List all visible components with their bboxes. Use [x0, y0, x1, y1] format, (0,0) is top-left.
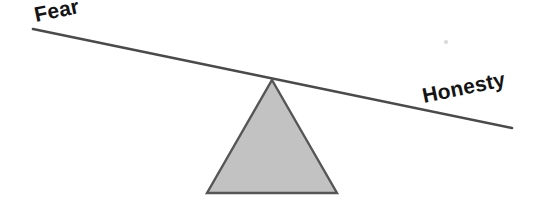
triangle-fulcrum	[207, 80, 337, 193]
diagram-canvas: Fear Honesty	[0, 0, 536, 213]
scan-speck	[444, 40, 448, 44]
balance-diagram: Fear Honesty	[0, 0, 536, 213]
label-fear: Fear	[32, 0, 81, 26]
label-honesty: Honesty	[420, 67, 507, 107]
